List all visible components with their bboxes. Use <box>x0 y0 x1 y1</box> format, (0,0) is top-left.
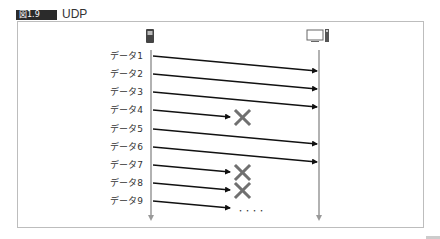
pending-arrow <box>153 201 230 208</box>
lost-arrow <box>153 183 230 190</box>
corner-mark <box>426 236 440 239</box>
message-label: データ7 <box>110 159 143 170</box>
packet-lost-x-icon <box>236 111 249 124</box>
delivered-arrow <box>153 74 317 89</box>
lost-arrow <box>153 165 230 172</box>
delivered-arrow <box>153 92 317 107</box>
server-icon <box>307 29 329 42</box>
message-label: データ3 <box>110 86 143 97</box>
lost-arrow <box>153 110 230 117</box>
packet-lost-x-icon <box>236 184 249 197</box>
message-label: データ1 <box>110 50 143 61</box>
message-label: データ8 <box>110 177 143 188</box>
message-label: データ9 <box>110 195 143 206</box>
delivered-arrow <box>153 129 317 144</box>
delivered-arrow <box>153 56 317 71</box>
udp-sequence-diagram: データ1 データ2 データ3 データ4 データ5 データ6 データ7 データ8 … <box>0 0 440 239</box>
delivered-arrow <box>153 147 317 162</box>
packet-lost-x-icon <box>236 166 249 179</box>
message-labels: データ1 データ2 データ3 データ4 データ5 データ6 データ7 データ8 … <box>110 50 143 206</box>
message-label: データ4 <box>110 104 143 115</box>
phone-icon <box>146 29 154 43</box>
message-label: データ6 <box>110 141 143 152</box>
continuation-dots: ・・・・ <box>237 207 265 215</box>
message-label: データ2 <box>110 68 143 79</box>
message-label: データ5 <box>110 123 143 134</box>
